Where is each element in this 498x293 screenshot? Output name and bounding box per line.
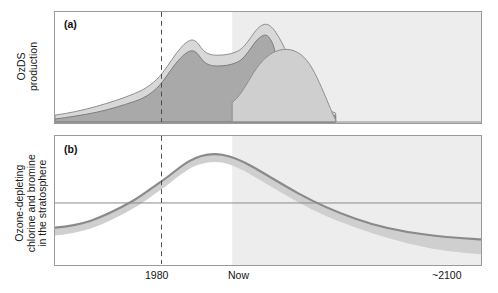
panel-b-y-axis-label: Ozone-depleting chlorine and bromine in … bbox=[14, 142, 49, 264]
panel-b-chart-svg bbox=[55, 136, 481, 265]
xtick-label-2100: ~2100 bbox=[432, 269, 462, 281]
xtick-label-1980: 1980 bbox=[145, 269, 168, 281]
panel-b-y-axis-label-line3: in the stratosphere bbox=[37, 142, 49, 264]
panel-a-y-axis-label: OzDS production bbox=[16, 27, 39, 107]
panel-b-y-axis-label-line1: Ozone-depleting bbox=[14, 142, 26, 264]
panel-a-y-axis-label-line1: OzDS bbox=[16, 27, 28, 107]
panel-a-tag: (a) bbox=[64, 18, 77, 30]
panel-b-tag: (b) bbox=[64, 143, 77, 155]
figure-root: OzDS production Ozone-depleting chlorine… bbox=[0, 0, 498, 293]
xtick-label-now: Now bbox=[228, 269, 249, 281]
panel-b-plot-area bbox=[54, 135, 482, 266]
panel-a-plot-area bbox=[54, 11, 482, 124]
panel-a-y-axis-label-line2: production bbox=[27, 27, 39, 107]
panel-a-chart-svg bbox=[55, 12, 481, 123]
